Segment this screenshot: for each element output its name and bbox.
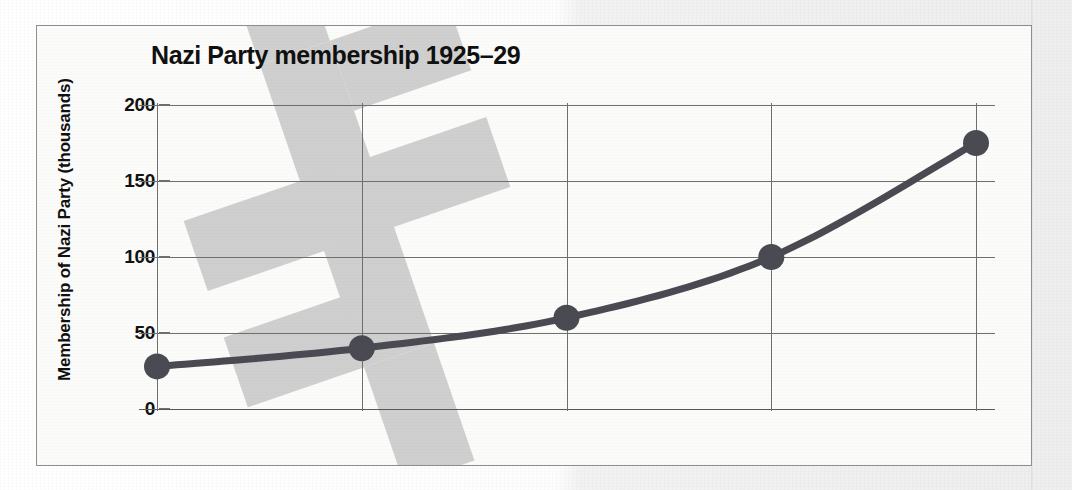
data-point-1925: [144, 353, 170, 379]
data-point-1928: [758, 244, 784, 270]
plot-area: 1925 1926 1927 1928 1929: [157, 105, 976, 409]
y-axis-tick-labels: 200 150 100 50 0: [37, 105, 155, 409]
data-point-1927: [554, 305, 580, 331]
data-point-1926: [349, 335, 375, 361]
data-point-1929: [963, 130, 989, 156]
data-point-markers: [144, 130, 989, 379]
series-line-membership: [157, 105, 1017, 425]
chart-figure: Nazi Party membership 1925–29 Membership…: [36, 25, 1032, 466]
chart-title: Nazi Party membership 1925–29: [151, 41, 520, 70]
